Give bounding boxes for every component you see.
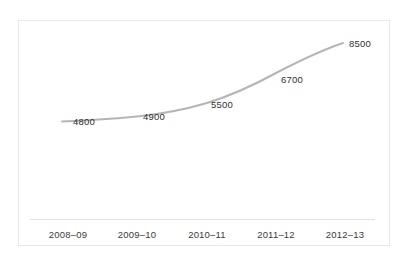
- chart-plot-area: [0, 0, 407, 262]
- line-chart: 4800 4900 5500 6700 8500 2008–09 2009–10…: [0, 0, 407, 262]
- data-label-1: 4800: [73, 116, 95, 127]
- data-label-4: 6700: [281, 74, 303, 85]
- x-tick-label-2: 2009–10: [118, 229, 156, 240]
- data-label-5: 8500: [349, 38, 371, 49]
- x-tick-label-4: 2011–12: [257, 229, 295, 240]
- x-tick-label-5: 2012–13: [326, 229, 364, 240]
- data-label-3: 5500: [211, 99, 233, 110]
- x-tick-label-3: 2010–11: [188, 229, 226, 240]
- data-label-2: 4900: [143, 111, 165, 122]
- x-tick-label-1: 2008–09: [49, 229, 87, 240]
